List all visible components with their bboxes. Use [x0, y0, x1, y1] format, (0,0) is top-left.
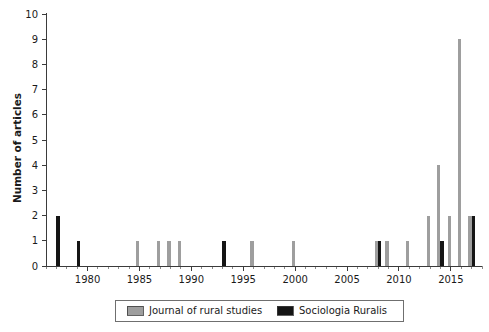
legend-label-1: Sociologia Ruralis: [299, 305, 387, 316]
y-tick-label: 3: [32, 185, 38, 196]
bar-journal-of-rural-studies-1989: [178, 241, 181, 266]
y-tick-label: 10: [25, 9, 38, 20]
bar-sociologia-ruralis-2017: [472, 216, 475, 266]
x-tick-label: 1990: [179, 274, 204, 285]
bar-journal-of-rural-studies-1996: [250, 241, 253, 266]
bar-journal-of-rural-studies-2009: [385, 241, 388, 266]
x-tick-label: 2010: [386, 274, 411, 285]
legend-swatch-1: [277, 306, 293, 315]
y-tick-label: 6: [32, 109, 38, 120]
bar-journal-of-rural-studies-2015: [448, 216, 451, 266]
y-axis-ticks: 012345678910: [25, 9, 46, 272]
y-axis-title-group: Number of articles: [11, 93, 23, 203]
legend-label-0: Journal of rural studies: [148, 305, 262, 316]
bar-journal-of-rural-studies-2008: [375, 241, 378, 266]
chart-container: Number of articles 012345678910 19801985…: [0, 0, 489, 332]
bar-journal-of-rural-studies-2017: [468, 216, 471, 266]
bar-sociologia-ruralis-1993: [222, 241, 225, 266]
bar-journal-of-rural-studies-1988: [167, 241, 170, 266]
chart-legend: Journal of rural studiesSociologia Rural…: [115, 300, 403, 321]
y-tick-label: 4: [32, 160, 38, 171]
y-tick-label: 7: [32, 84, 38, 95]
bar-sociologia-ruralis-2008: [378, 241, 381, 266]
x-axis-ticks: 19801985199019952000200520102015: [75, 266, 464, 285]
bar-journal-of-rural-studies-1987: [157, 241, 160, 266]
x-tick-label: 2005: [334, 274, 359, 285]
bar-chart-svg: Number of articles 012345678910 19801985…: [0, 0, 489, 332]
legend-swatch-0: [127, 306, 143, 315]
bar-journal-of-rural-studies-2000: [292, 241, 295, 266]
bar-journal-of-rural-studies-2013: [427, 216, 430, 266]
bars-layer: [56, 39, 474, 266]
bar-sociologia-ruralis-1979: [77, 241, 80, 266]
bar-journal-of-rural-studies-1985: [136, 241, 139, 266]
x-tick-label: 1995: [231, 274, 256, 285]
x-tick-label: 2000: [282, 274, 307, 285]
x-tick-label: 1985: [127, 274, 152, 285]
bar-sociologia-ruralis-2014: [440, 241, 443, 266]
y-tick-label: 2: [32, 210, 38, 221]
bar-journal-of-rural-studies-2014: [437, 165, 440, 266]
y-axis-title: Number of articles: [11, 93, 23, 203]
bar-journal-of-rural-studies-2011: [406, 241, 409, 266]
bar-sociologia-ruralis-1977: [56, 216, 59, 266]
y-tick-label: 1: [32, 235, 38, 246]
y-tick-label: 5: [32, 135, 38, 146]
y-tick-label: 9: [32, 34, 38, 45]
y-tick-label: 8: [32, 59, 38, 70]
x-tick-label: 1980: [75, 274, 100, 285]
x-tick-label: 2015: [438, 274, 463, 285]
y-tick-label: 0: [32, 261, 38, 272]
bar-journal-of-rural-studies-2016: [458, 39, 461, 266]
